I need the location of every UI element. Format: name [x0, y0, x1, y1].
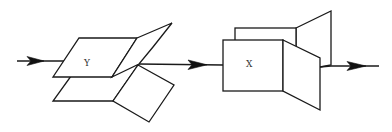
block-y: Y [53, 23, 174, 122]
block-x: X [223, 11, 331, 110]
block-y-label: Y [83, 58, 91, 68]
x-front-rect [223, 40, 283, 91]
diagram-canvas: Y X [0, 0, 392, 132]
block-x-label: X [246, 59, 253, 69]
middle-arrow [139, 60, 223, 70]
